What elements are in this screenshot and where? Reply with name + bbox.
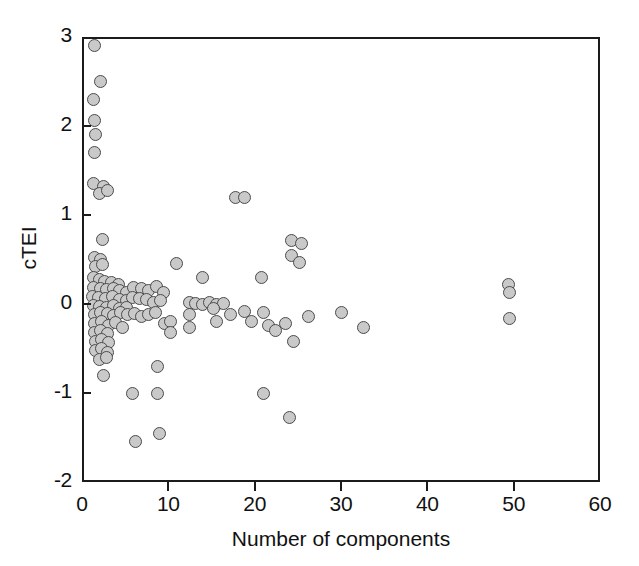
plot-frame	[82, 37, 600, 482]
x-axis-tick	[167, 482, 169, 491]
y-axis-tick-label: 2	[24, 112, 72, 136]
x-axis-tick	[254, 482, 256, 491]
y-axis-tick	[82, 392, 91, 394]
x-axis-tick	[426, 482, 428, 491]
y-axis-label: cTEI	[17, 188, 41, 308]
y-axis-tick-label: -1	[24, 379, 72, 403]
x-axis-label: Number of components	[82, 527, 600, 551]
y-axis-tick	[82, 125, 91, 127]
x-axis-tick-label: 60	[570, 492, 630, 516]
y-axis-tick-label: -2	[24, 468, 72, 492]
x-axis-tick-label: 0	[52, 492, 112, 516]
x-axis-tick-label: 50	[484, 492, 544, 516]
x-axis-tick-label: 40	[397, 492, 457, 516]
x-axis-tick	[340, 482, 342, 491]
x-axis-tick-label: 30	[311, 492, 371, 516]
x-axis-tick-label: 20	[225, 492, 285, 516]
y-axis-tick-label: 3	[24, 23, 72, 47]
scatter-plot-figure: 0102030405060-2-10123 Number of componen…	[0, 0, 639, 566]
y-axis-tick	[82, 303, 91, 305]
x-axis-tick	[513, 482, 515, 491]
x-axis-tick-label: 10	[138, 492, 198, 516]
y-axis-tick	[82, 214, 91, 216]
